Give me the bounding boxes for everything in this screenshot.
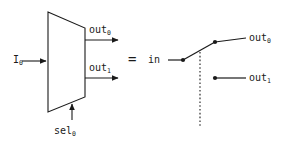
switch-input-label: in — [148, 55, 160, 65]
mux-input-label: I0 — [13, 55, 23, 65]
mux-output0-label-sub: 0 — [107, 29, 111, 37]
mux-select-label-base: sel — [54, 125, 72, 136]
switch-output0-label-sub: 0 — [267, 37, 271, 45]
switch-output0-label: out0 — [249, 33, 271, 43]
mux-output0-label-base: out — [89, 24, 107, 35]
mux-output1-label-sub: 1 — [107, 67, 111, 75]
mux-symbol — [48, 12, 85, 112]
out0-lead — [215, 38, 246, 42]
throw-arm-line[interactable] — [183, 42, 215, 60]
mux-input-label-sub: 0 — [19, 59, 23, 67]
switch-output1-label-base: out — [249, 72, 267, 83]
switch-input-wire — [168, 58, 185, 62]
switch-throw-arm[interactable] — [183, 42, 215, 60]
switch-output1-label-sub: 1 — [267, 77, 271, 85]
mux-output1-label: out1 — [89, 63, 111, 73]
figure-canvas: I0 out0 out1 sel0 = in out0 out1 — [0, 0, 283, 152]
switch-output1-label: out1 — [249, 73, 271, 83]
switch-output0-label-base: out — [249, 32, 267, 43]
switch-output0-wire — [213, 38, 246, 44]
mux-output1-label-base: out — [89, 62, 107, 73]
mux-select-label-sub: 0 — [72, 130, 76, 138]
mux-output0-label: out0 — [89, 25, 111, 35]
equals-sign: = — [128, 52, 136, 66]
mux-trapezoid-body — [48, 12, 85, 112]
mux-select-label: sel0 — [54, 126, 76, 136]
switch-output1-wire — [213, 76, 246, 80]
diagram-svg — [0, 0, 283, 152]
